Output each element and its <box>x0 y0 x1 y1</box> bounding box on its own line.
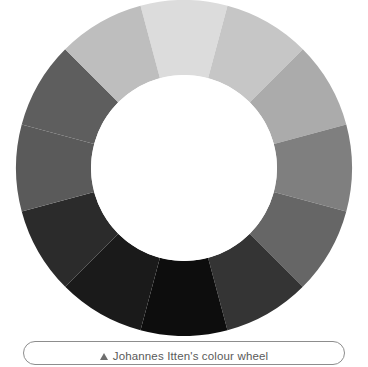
triangle-up-icon <box>100 353 108 360</box>
caption-box: Johannes Itten's colour wheel <box>23 341 345 365</box>
caption-label: Johannes Itten's colour wheel <box>113 350 269 363</box>
figure-colour-wheel: YellowYellow-orangeOrangeRed-orangeRedRe… <box>0 0 368 367</box>
wheel-center-hole <box>91 75 277 261</box>
colour-wheel-graphic: YellowYellow-orangeOrangeRed-orangeRedRe… <box>0 0 368 336</box>
caption-inner: Johannes Itten's colour wheel <box>100 350 269 363</box>
colour-wheel-svg: YellowYellow-orangeOrangeRed-orangeRedRe… <box>0 0 368 336</box>
